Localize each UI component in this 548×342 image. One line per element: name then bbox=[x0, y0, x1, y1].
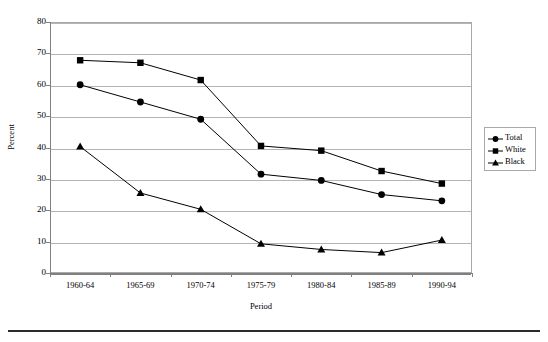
x-tick-2 bbox=[171, 273, 172, 277]
circle-marker bbox=[487, 131, 504, 143]
gridline-0 bbox=[51, 274, 471, 275]
data-point-total-1975-79 bbox=[258, 171, 265, 178]
y-axis-tick-labels: 01020304050607080 bbox=[0, 0, 46, 342]
y-tick-label-60: 60 bbox=[6, 80, 46, 89]
x-tick-0 bbox=[50, 273, 51, 277]
data-point-black-1990-94 bbox=[438, 236, 446, 243]
legend-item-white: White bbox=[487, 143, 533, 155]
data-point-total-1970-74 bbox=[197, 116, 204, 123]
x-tick-1 bbox=[110, 273, 111, 277]
data-point-white-1965-69 bbox=[137, 60, 143, 66]
chart-legend: TotalWhiteBlack bbox=[484, 127, 536, 171]
x-tick-label-1965-69: 1965-69 bbox=[126, 280, 154, 290]
data-point-total-1960-64 bbox=[77, 81, 84, 88]
data-point-white-1985-89 bbox=[378, 168, 384, 174]
x-tick-6 bbox=[412, 273, 413, 277]
legend-label-total: Total bbox=[504, 131, 522, 143]
legend-item-black: Black bbox=[487, 155, 533, 167]
legend-label-black: Black bbox=[504, 155, 525, 167]
x-tick-label-1990-94: 1990-94 bbox=[428, 280, 456, 290]
data-point-white-1975-79 bbox=[258, 143, 264, 149]
data-series-layer bbox=[50, 22, 472, 273]
y-axis-title: Percent bbox=[6, 107, 16, 167]
data-point-total-1980-84 bbox=[318, 177, 325, 184]
y-tick-label-20: 20 bbox=[6, 205, 46, 214]
x-tick-3 bbox=[231, 273, 232, 277]
x-tick-4 bbox=[291, 273, 292, 277]
data-point-white-1960-64 bbox=[77, 57, 83, 63]
data-point-white-1990-94 bbox=[439, 180, 445, 186]
y-tick-label-70: 70 bbox=[6, 48, 46, 57]
data-point-total-1965-69 bbox=[137, 99, 144, 106]
y-tick-label-30: 30 bbox=[6, 174, 46, 183]
chart-figure: 01020304050607080 Percent 1960-641965-69… bbox=[0, 0, 548, 342]
data-point-white-1970-74 bbox=[198, 77, 204, 83]
series-black bbox=[76, 143, 446, 256]
legend-label-white: White bbox=[504, 143, 526, 155]
data-point-black-1960-64 bbox=[76, 143, 84, 150]
x-tick-label-1960-64: 1960-64 bbox=[66, 280, 94, 290]
data-point-total-1985-89 bbox=[378, 191, 385, 198]
legend-item-total: Total bbox=[487, 131, 533, 143]
data-point-white-1980-84 bbox=[318, 147, 324, 153]
x-tick-label-1970-74: 1970-74 bbox=[187, 280, 215, 290]
x-tick-5 bbox=[351, 273, 352, 277]
data-point-total-1990-94 bbox=[438, 197, 445, 204]
x-tick-label-1980-84: 1980-84 bbox=[307, 280, 335, 290]
x-tick-label-1985-89: 1985-89 bbox=[367, 280, 395, 290]
x-tick-label-1975-79: 1975-79 bbox=[247, 280, 275, 290]
y-tick-label-10: 10 bbox=[6, 237, 46, 246]
y-tick-label-80: 80 bbox=[6, 17, 46, 26]
series-line-black bbox=[80, 147, 442, 253]
data-point-black-1965-69 bbox=[136, 189, 144, 196]
triangle-marker bbox=[487, 155, 504, 167]
x-axis-title: Period bbox=[50, 301, 472, 311]
x-axis-line bbox=[50, 273, 472, 274]
x-tick-7 bbox=[472, 273, 473, 277]
data-point-black-1975-79 bbox=[257, 240, 265, 247]
square-marker bbox=[487, 143, 504, 155]
footer-divider bbox=[8, 330, 540, 332]
y-tick-label-0: 0 bbox=[6, 268, 46, 277]
series-white bbox=[77, 57, 445, 187]
series-line-white bbox=[80, 60, 442, 183]
